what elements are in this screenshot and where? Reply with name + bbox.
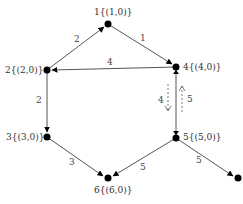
edge-5-7: [176, 138, 233, 176]
graph-diagram: 1{(1,0)} 2{(2,0)} 4{(4,0)} 3{(3,0)} 5{(5…: [0, 0, 243, 204]
flow-down-label: 4: [158, 95, 164, 105]
node-6-label: 6{(6,0)}: [94, 185, 133, 195]
edge-3-6: [47, 137, 103, 176]
node-7: [235, 175, 242, 182]
edge-4-5-vertical: [173, 67, 179, 138]
node-5: [173, 135, 180, 142]
flow-up-label: 5: [187, 94, 193, 104]
node-4-label: 4{(4,0)}: [183, 62, 222, 72]
node-1-label: 1{(1,0)}: [94, 7, 133, 17]
node-2: [44, 67, 51, 74]
node-6: [105, 175, 112, 182]
edge-4-2: [52, 67, 176, 70]
weight-2-3: 2: [36, 95, 42, 105]
node-4: [173, 64, 180, 71]
weight-5-7: 5: [196, 155, 202, 165]
dashed-flow-down-arrow: [165, 84, 171, 111]
weight-1-4: 1: [140, 33, 146, 43]
node-5-label: 5{(5,0)}: [183, 132, 222, 142]
weight-4-2: 4: [107, 57, 113, 67]
node-3: [44, 134, 51, 141]
edge-1-4: [108, 24, 172, 64]
weight-2-1: 2: [74, 34, 80, 44]
dashed-flow-up-arrow: [179, 86, 185, 112]
node-3-label: 3{(3,0)}: [6, 132, 45, 142]
node-1: [105, 21, 112, 28]
node-2-label: 2{(2,0)}: [5, 65, 44, 75]
weight-3-6: 3: [69, 157, 75, 167]
weight-5-6: 5: [140, 162, 146, 172]
